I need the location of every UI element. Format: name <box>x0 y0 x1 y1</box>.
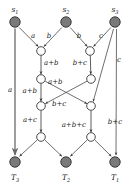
node-relay-n1R <box>86 47 95 56</box>
edge-label-s3-T1: b+c <box>108 118 122 126</box>
edge-label-n1L-n2L: a+b <box>44 59 59 67</box>
edge-label-n3L-n4L: a+c <box>23 116 37 124</box>
edge-n4R-T2 <box>70 140 87 156</box>
edge-s1-n1L <box>19 28 38 47</box>
node-relay-n2R <box>87 75 96 84</box>
node-relay-n4R <box>87 133 96 142</box>
node-relay-n4L <box>37 133 46 142</box>
edge-n4L-T2 <box>45 140 62 156</box>
edge-label-layer: a a b b c c b+c a+b b+c a+b a+b b+c a+c … <box>8 32 122 129</box>
edge-s3-T1 <box>116 29 117 155</box>
edge-label-s1-n1L: a <box>31 32 35 40</box>
edge-label-s3-n3R: c <box>117 56 121 64</box>
node-label-s1: s1 <box>11 5 18 15</box>
node-sink-T2 <box>61 157 71 167</box>
edge-label-s1-T3: a <box>8 86 12 94</box>
edge-label-n2R-n3L: b+c <box>52 100 66 108</box>
edge-label-n3R-n4R: a+b+c <box>62 121 86 129</box>
node-source-s3 <box>110 17 120 27</box>
node-sink-T1 <box>110 157 120 167</box>
edge-n4L-T3 <box>20 140 37 156</box>
node-label-T3: T3 <box>11 173 19 183</box>
node-relay-n1L <box>37 47 46 56</box>
diagram-canvas: s1 s2 s3 T3 T2 T1 a a b b c c b+c a+b b+… <box>0 0 133 188</box>
node-sink-T3 <box>10 157 20 167</box>
edge-label-n1R-n2R: b+c <box>73 59 87 67</box>
edge-label-n2L-n3L: a+b <box>22 87 37 95</box>
node-source-s1 <box>10 17 20 27</box>
node-relay-n2L <box>37 75 46 84</box>
edge-label-s2-n1L: b <box>47 32 52 40</box>
edge-n1R-n2R <box>90 56 91 75</box>
network-coding-diagram: s1 s2 s3 T3 T2 T1 a a b b c c b+c a+b b+… <box>0 0 133 188</box>
edge-label-s3-n1R: c <box>99 32 103 40</box>
node-label-s3: s3 <box>111 5 118 15</box>
node-source-s2 <box>61 17 71 27</box>
node-relay-n3R <box>87 102 96 111</box>
edge-label-s2-n1R: b <box>77 32 82 40</box>
edge-n4R-T1 <box>95 140 111 156</box>
node-label-T1: T1 <box>111 173 119 183</box>
node-label-T2: T2 <box>62 173 70 183</box>
edge-label-n2L-n3R: a+b <box>48 78 63 86</box>
node-label-s2: s2 <box>62 5 69 15</box>
edge-s3-n3R <box>93 29 113 102</box>
node-relay-n3L <box>37 102 46 111</box>
